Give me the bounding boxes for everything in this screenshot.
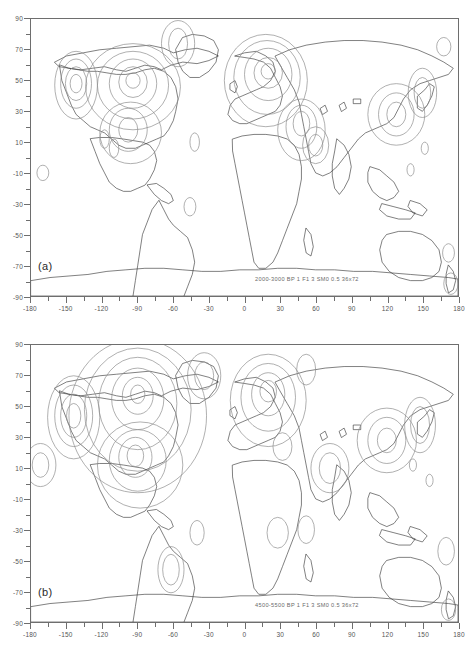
panel-label-a: (a) (38, 260, 53, 272)
figure-container: 90 70 50 30 10 -10 -30 -50 -70 -90 -180 … (0, 0, 473, 651)
y-axis-a: 90 70 50 30 10 -10 -30 -50 -70 -90 (6, 18, 30, 297)
plot-area-b (30, 344, 459, 623)
panel-b: 90 70 50 30 10 -10 -30 -50 -70 -90 -180 … (0, 326, 473, 651)
run-caption-b: 4500-5500 BP 1 F1 3 SM0 0.5 36x72 (255, 602, 359, 608)
plot-area-a (30, 18, 459, 297)
world-map-a (31, 19, 458, 296)
run-caption-a: 2000-3000 BP 1 F1 3 SM0 0.5 36x72 (255, 276, 359, 282)
x-axis-b: -180 -150 -120 -90 -60 -30 0 30 60 90 12… (30, 623, 459, 649)
world-map-b (31, 345, 458, 622)
panel-label-b: (b) (38, 586, 53, 598)
contours-a (37, 21, 458, 295)
y-axis-b: 90 70 50 30 10 -10 -30 -50 -70 -90 (6, 344, 30, 623)
panel-a: 90 70 50 30 10 -10 -30 -50 -70 -90 -180 … (0, 0, 473, 325)
contours-b (31, 345, 456, 620)
coastlines-b (31, 360, 458, 622)
x-axis-a: -180 -150 -120 -90 -60 -30 0 30 60 90 12… (30, 297, 459, 323)
